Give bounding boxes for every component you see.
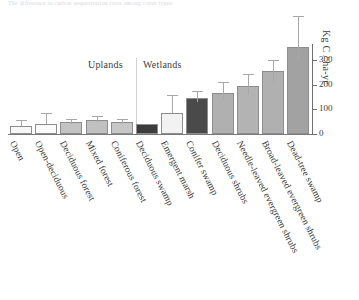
y-tick-label-200: 200 <box>319 80 333 89</box>
error-bar <box>223 82 224 100</box>
error-bar-cap <box>268 60 279 61</box>
error-bar-cap <box>167 95 178 96</box>
error-bar-cap <box>16 120 27 121</box>
error-bar <box>172 95 173 113</box>
error-bar-cap <box>192 91 203 92</box>
group-label-uplands: Uplands <box>88 59 123 70</box>
bar <box>35 124 57 134</box>
y-tick-0 <box>313 134 317 135</box>
error-bar-cap <box>66 119 77 120</box>
error-bar <box>248 74 249 95</box>
category-label: Open <box>8 139 26 162</box>
y-tick-100 <box>313 109 317 110</box>
y-tick-label-100: 100 <box>319 104 333 113</box>
group-divider <box>136 58 137 134</box>
error-bar-cap <box>117 119 128 120</box>
bar <box>186 98 208 134</box>
x-axis-baseline <box>8 134 313 135</box>
bar <box>161 113 183 134</box>
error-bar <box>298 16 299 61</box>
error-bar <box>273 60 274 82</box>
figure-caption-strip: The difference in carbon sequestration r… <box>8 0 238 7</box>
error-bar-cap <box>293 16 304 17</box>
error-bar-cap <box>41 113 52 114</box>
error-bar-cap <box>218 82 229 83</box>
y-tick-label-300: 300 <box>319 55 333 64</box>
bar <box>136 124 158 134</box>
error-bar-cap <box>243 74 254 75</box>
bar <box>60 122 82 134</box>
y-tick-300 <box>313 60 317 61</box>
y-tick-200 <box>313 85 317 86</box>
error-bar <box>46 113 47 124</box>
y-axis-line <box>312 44 313 135</box>
y-tick-label-0: 0 <box>319 129 324 138</box>
group-label-wetlands: Wetlands <box>143 59 182 70</box>
figure-container: The difference in carbon sequestration r… <box>0 0 359 300</box>
error-bar <box>197 91 198 102</box>
error-bar-cap <box>92 116 103 117</box>
bar <box>111 122 133 134</box>
bar <box>10 126 32 134</box>
